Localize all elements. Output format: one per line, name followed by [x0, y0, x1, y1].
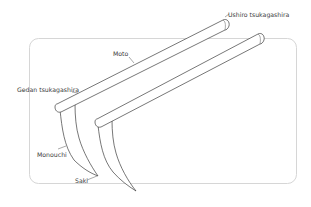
kama-2-blade [98, 120, 136, 191]
kama-2 [95, 33, 264, 191]
label-saki: Saki [75, 177, 88, 184]
label-ushiro-tsukagashira: Ushiro tsukagashira [228, 11, 290, 19]
leader-saki [87, 176, 97, 180]
kama-1-blade [60, 104, 98, 176]
leader-moto [129, 57, 134, 63]
label-monouchi: Monouchi [37, 151, 67, 158]
label-gedan-tsukagashira: Gedan tsukagashira [17, 86, 79, 94]
kama-diagram: Ushiro tsukagashira Moto Gedan tsukagash… [0, 0, 311, 207]
label-moto: Moto [113, 50, 129, 57]
leader-monouchi [58, 146, 66, 149]
